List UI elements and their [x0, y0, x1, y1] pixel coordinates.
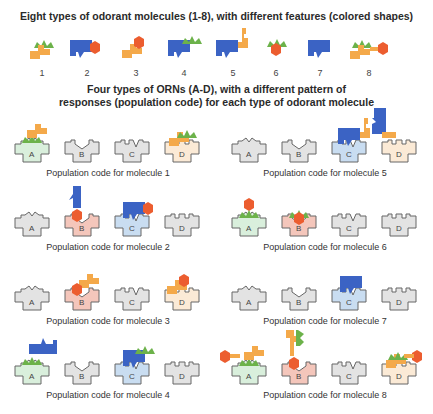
svg-text:A: A: [246, 372, 252, 381]
caption-molecule-5: Population code for molecule 5: [225, 168, 425, 178]
caption-molecule-2: Population code for molecule 2: [8, 242, 208, 252]
svg-text:D: D: [179, 372, 185, 381]
population-code-1: A B C D: [15, 124, 199, 162]
svg-text:A: A: [29, 298, 35, 307]
population-code-6: A B C D: [232, 198, 416, 236]
svg-text:C: C: [346, 150, 352, 159]
svg-text:B: B: [296, 372, 301, 381]
molecule-label-2: 2: [79, 68, 95, 78]
caption-molecule-3: Population code for molecule 3: [8, 316, 208, 326]
svg-text:B: B: [296, 150, 301, 159]
svg-text:A: A: [29, 224, 35, 233]
svg-text:B: B: [79, 298, 84, 307]
svg-text:C: C: [346, 224, 352, 233]
molecule-label-4: 4: [176, 68, 192, 78]
caption-molecule-1: Population code for molecule 1: [8, 168, 208, 178]
molecule-label-6: 6: [268, 68, 284, 78]
svg-text:D: D: [179, 298, 185, 307]
molecule-6: [267, 39, 287, 56]
population-code-7: A B C D: [232, 276, 416, 310]
population-code-3: A B C D: [15, 274, 199, 310]
molecule-label-1: 1: [34, 68, 50, 78]
caption-molecule-6: Population code for molecule 6: [225, 242, 425, 252]
svg-text:A: A: [246, 298, 252, 307]
svg-text:D: D: [396, 298, 402, 307]
population-code-2: A B C D: [15, 186, 199, 236]
svg-text:B: B: [79, 150, 84, 159]
svg-text:A: A: [29, 150, 35, 159]
svg-text:B: B: [296, 224, 301, 233]
population-code-8: A B C D: [220, 330, 422, 384]
svg-text:A: A: [29, 372, 35, 381]
molecule-3: [122, 36, 144, 58]
svg-text:C: C: [346, 372, 352, 381]
molecule-8: [350, 40, 388, 59]
svg-text:B: B: [296, 298, 301, 307]
svg-text:D: D: [396, 150, 402, 159]
svg-text:C: C: [129, 150, 135, 159]
title-orns-line1: Four types of ORNs (A-D), with a differe…: [0, 83, 433, 95]
molecule-5: [216, 28, 248, 58]
caption-molecule-8: Population code for molecule 8: [225, 390, 425, 400]
svg-text:B: B: [79, 372, 84, 381]
svg-text:D: D: [179, 224, 185, 233]
caption-molecule-4: Population code for molecule 4: [8, 390, 208, 400]
svg-text:D: D: [179, 150, 185, 159]
molecule-1: [30, 40, 54, 59]
molecule-label-5: 5: [225, 68, 241, 78]
population-code-4: A B C D: [15, 338, 199, 384]
svg-text:C: C: [129, 298, 135, 307]
molecule-4: [168, 36, 202, 58]
molecule-label-3: 3: [128, 68, 144, 78]
molecule-label-8: 8: [361, 68, 377, 78]
svg-text:D: D: [396, 372, 402, 381]
svg-text:A: A: [246, 224, 252, 233]
svg-text:D: D: [396, 224, 402, 233]
svg-text:C: C: [129, 224, 135, 233]
svg-text:A: A: [246, 150, 252, 159]
molecule-label-7: 7: [312, 68, 328, 78]
svg-text:B: B: [79, 224, 84, 233]
population-code-5: A B C D: [232, 108, 416, 162]
svg-text:C: C: [129, 372, 135, 381]
svg-text:C: C: [346, 298, 352, 307]
caption-molecule-7: Population code for molecule 7: [225, 316, 425, 326]
diagram-canvas: A B C D A B C D A B C D A B C D A B: [0, 0, 433, 414]
molecule-7: [308, 40, 330, 58]
molecule-2: [70, 40, 100, 58]
title-orns-line2: responses (population code) for each typ…: [0, 96, 433, 108]
